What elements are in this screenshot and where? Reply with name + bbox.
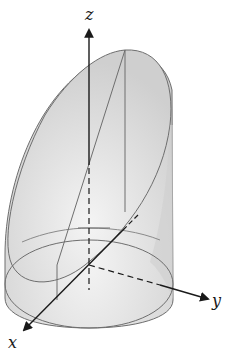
z-axis-label: z: [84, 5, 94, 24]
x-axis-label: x: [8, 333, 17, 352]
cylinder-plane-diagram: z y x: [0, 0, 227, 356]
y-axis-label: y: [211, 291, 222, 310]
